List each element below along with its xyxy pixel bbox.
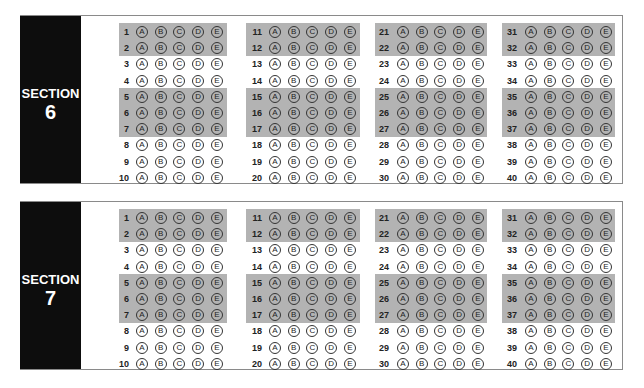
answer-bubble-b[interactable]: B <box>544 42 556 54</box>
answer-bubble-c[interactable]: C <box>173 261 185 273</box>
answer-bubble-d[interactable]: D <box>325 139 337 151</box>
answer-bubble-c[interactable]: C <box>306 156 318 168</box>
answer-bubble-a[interactable]: A <box>397 139 409 151</box>
answer-bubble-a[interactable]: A <box>525 244 537 256</box>
answer-bubble-b[interactable]: B <box>416 342 428 354</box>
answer-bubble-d[interactable]: D <box>192 293 204 305</box>
answer-bubble-b[interactable]: B <box>155 293 167 305</box>
answer-bubble-e[interactable]: E <box>472 91 484 103</box>
answer-bubble-e[interactable]: E <box>472 26 484 38</box>
answer-bubble-b[interactable]: B <box>155 107 167 119</box>
answer-bubble-d[interactable]: D <box>453 26 465 38</box>
answer-bubble-d[interactable]: D <box>453 172 465 184</box>
answer-bubble-d[interactable]: D <box>192 325 204 337</box>
answer-bubble-c[interactable]: C <box>562 244 574 256</box>
answer-bubble-b[interactable]: B <box>155 277 167 289</box>
answer-bubble-d[interactable]: D <box>192 107 204 119</box>
answer-bubble-e[interactable]: E <box>211 139 223 151</box>
answer-bubble-b[interactable]: B <box>288 309 300 321</box>
answer-bubble-b[interactable]: B <box>288 156 300 168</box>
answer-bubble-e[interactable]: E <box>211 342 223 354</box>
answer-bubble-b[interactable]: B <box>544 309 556 321</box>
answer-bubble-e[interactable]: E <box>472 75 484 87</box>
answer-bubble-d[interactable]: D <box>581 293 593 305</box>
answer-bubble-d[interactable]: D <box>325 277 337 289</box>
answer-bubble-a[interactable]: A <box>525 293 537 305</box>
answer-bubble-a[interactable]: A <box>136 75 148 87</box>
answer-bubble-e[interactable]: E <box>211 26 223 38</box>
answer-bubble-e[interactable]: E <box>344 228 356 240</box>
answer-bubble-d[interactable]: D <box>325 342 337 354</box>
answer-bubble-a[interactable]: A <box>397 156 409 168</box>
answer-bubble-d[interactable]: D <box>192 172 204 184</box>
answer-bubble-e[interactable]: E <box>600 277 612 289</box>
answer-bubble-a[interactable]: A <box>397 58 409 70</box>
answer-bubble-b[interactable]: B <box>544 244 556 256</box>
answer-bubble-e[interactable]: E <box>472 123 484 135</box>
answer-bubble-b[interactable]: B <box>544 212 556 224</box>
answer-bubble-b[interactable]: B <box>155 139 167 151</box>
answer-bubble-e[interactable]: E <box>211 42 223 54</box>
answer-bubble-a[interactable]: A <box>136 325 148 337</box>
answer-bubble-e[interactable]: E <box>600 293 612 305</box>
answer-bubble-e[interactable]: E <box>600 325 612 337</box>
answer-bubble-c[interactable]: C <box>173 172 185 184</box>
answer-bubble-e[interactable]: E <box>344 309 356 321</box>
answer-bubble-d[interactable]: D <box>325 91 337 103</box>
answer-bubble-d[interactable]: D <box>453 277 465 289</box>
answer-bubble-e[interactable]: E <box>472 293 484 305</box>
answer-bubble-b[interactable]: B <box>288 244 300 256</box>
answer-bubble-e[interactable]: E <box>344 172 356 184</box>
answer-bubble-e[interactable]: E <box>472 342 484 354</box>
answer-bubble-d[interactable]: D <box>453 139 465 151</box>
answer-bubble-b[interactable]: B <box>288 58 300 70</box>
answer-bubble-a[interactable]: A <box>525 172 537 184</box>
answer-bubble-b[interactable]: B <box>544 277 556 289</box>
answer-bubble-c[interactable]: C <box>562 139 574 151</box>
answer-bubble-d[interactable]: D <box>581 277 593 289</box>
answer-bubble-d[interactable]: D <box>325 156 337 168</box>
answer-bubble-d[interactable]: D <box>581 58 593 70</box>
answer-bubble-a[interactable]: A <box>397 91 409 103</box>
answer-bubble-b[interactable]: B <box>155 172 167 184</box>
answer-bubble-b[interactable]: B <box>288 42 300 54</box>
answer-bubble-b[interactable]: B <box>155 75 167 87</box>
answer-bubble-b[interactable]: B <box>416 107 428 119</box>
answer-bubble-a[interactable]: A <box>136 107 148 119</box>
answer-bubble-e[interactable]: E <box>344 42 356 54</box>
answer-bubble-e[interactable]: E <box>600 261 612 273</box>
answer-bubble-e[interactable]: E <box>344 277 356 289</box>
answer-bubble-b[interactable]: B <box>155 342 167 354</box>
answer-bubble-e[interactable]: E <box>211 293 223 305</box>
answer-bubble-e[interactable]: E <box>600 244 612 256</box>
answer-bubble-a[interactable]: A <box>525 139 537 151</box>
answer-bubble-c[interactable]: C <box>306 342 318 354</box>
answer-bubble-a[interactable]: A <box>525 261 537 273</box>
answer-bubble-a[interactable]: A <box>397 261 409 273</box>
answer-bubble-a[interactable]: A <box>269 107 281 119</box>
answer-bubble-d[interactable]: D <box>453 91 465 103</box>
answer-bubble-e[interactable]: E <box>344 325 356 337</box>
answer-bubble-d[interactable]: D <box>453 261 465 273</box>
answer-bubble-e[interactable]: E <box>600 358 612 370</box>
answer-bubble-e[interactable]: E <box>472 212 484 224</box>
answer-bubble-c[interactable]: C <box>434 75 446 87</box>
answer-bubble-b[interactable]: B <box>288 325 300 337</box>
answer-bubble-e[interactable]: E <box>344 261 356 273</box>
answer-bubble-e[interactable]: E <box>472 277 484 289</box>
answer-bubble-e[interactable]: E <box>344 212 356 224</box>
answer-bubble-b[interactable]: B <box>544 123 556 135</box>
answer-bubble-b[interactable]: B <box>544 172 556 184</box>
answer-bubble-d[interactable]: D <box>581 139 593 151</box>
answer-bubble-e[interactable]: E <box>600 75 612 87</box>
answer-bubble-d[interactable]: D <box>453 212 465 224</box>
answer-bubble-a[interactable]: A <box>525 26 537 38</box>
answer-bubble-c[interactable]: C <box>434 156 446 168</box>
answer-bubble-a[interactable]: A <box>136 139 148 151</box>
answer-bubble-a[interactable]: A <box>397 172 409 184</box>
answer-bubble-d[interactable]: D <box>325 26 337 38</box>
answer-bubble-a[interactable]: A <box>397 212 409 224</box>
answer-bubble-d[interactable]: D <box>192 139 204 151</box>
answer-bubble-b[interactable]: B <box>155 261 167 273</box>
answer-bubble-b[interactable]: B <box>155 358 167 370</box>
